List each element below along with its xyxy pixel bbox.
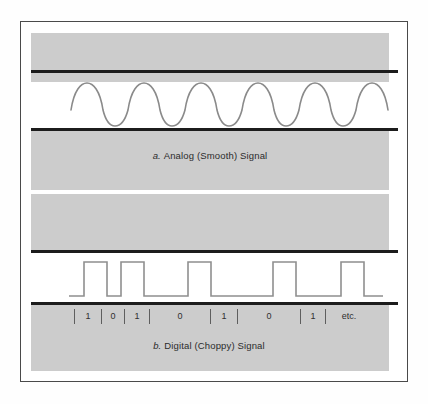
digital-square-wave bbox=[31, 254, 398, 303]
digital-caption: b. Digital (Choppy) Signal bbox=[30, 340, 388, 351]
analog-caption-text: Analog (Smooth) Signal bbox=[164, 150, 268, 161]
figure-root: a. Analog (Smooth) Signal 1 0 1 0 1 0 bbox=[0, 0, 428, 404]
bit-value-2: 1 bbox=[125, 311, 149, 321]
bit-value-5: 0 bbox=[238, 311, 300, 321]
bit-value-1: 0 bbox=[102, 311, 124, 321]
digital-top-rule bbox=[31, 250, 398, 253]
digital-top-gray-band bbox=[31, 194, 389, 251]
bit-row-etc-label: etc. bbox=[326, 311, 372, 321]
analog-caption: a. Analog (Smooth) Signal bbox=[31, 150, 389, 161]
bit-value-3: 0 bbox=[150, 311, 210, 321]
bit-value-4: 1 bbox=[211, 311, 237, 321]
analog-sine-wave bbox=[31, 74, 398, 129]
bit-value-6: 1 bbox=[301, 311, 325, 321]
digital-bit-row: 1 0 1 0 1 0 1 etc. bbox=[62, 304, 392, 328]
digital-caption-text: Digital (Choppy) Signal bbox=[164, 340, 265, 351]
analog-caption-lead: a. bbox=[153, 150, 161, 161]
analog-top-rule bbox=[31, 70, 398, 73]
bit-value-0: 1 bbox=[75, 311, 101, 321]
